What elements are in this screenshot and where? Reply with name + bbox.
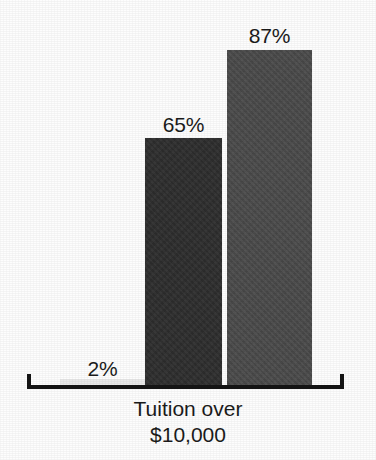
bar-65-percent	[145, 138, 222, 386]
x-axis-label-line-1: Tuition over	[62, 396, 314, 422]
x-axis-label-line-2: $10,000	[62, 422, 314, 448]
value-label-bar-1: 2%	[60, 358, 145, 379]
axis-tick-left	[27, 374, 31, 389]
bar-chart: 2% 65% 87% Tuition over $10,000	[0, 0, 376, 460]
value-label-bar-3: 87%	[227, 25, 312, 46]
plot-area: 2% 65% 87% Tuition over $10,000	[0, 0, 376, 460]
value-label-bar-2: 65%	[141, 114, 226, 135]
bar-87-percent	[227, 50, 312, 386]
axis-tick-right	[340, 374, 344, 389]
x-axis-label: Tuition over $10,000	[62, 396, 314, 448]
axis-baseline	[27, 385, 344, 389]
